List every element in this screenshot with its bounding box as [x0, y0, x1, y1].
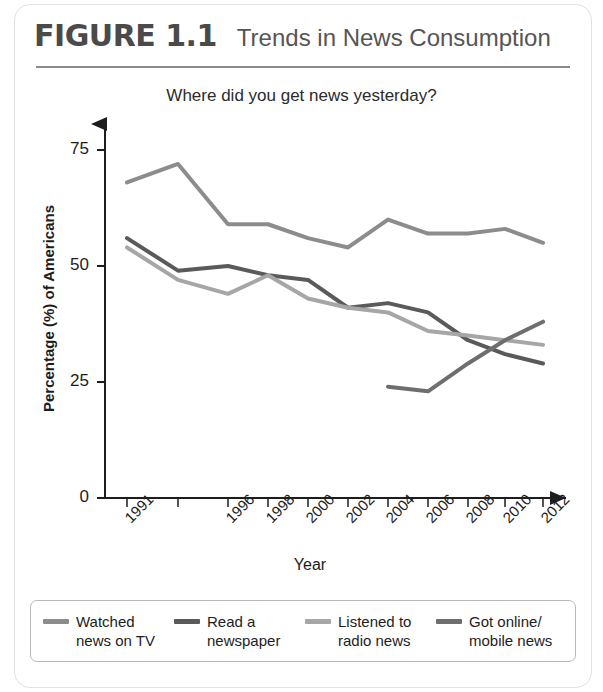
legend-label-line2: newspaper [207, 632, 280, 649]
legend-item: Watchednews on TV [41, 612, 172, 650]
legend-item: Got online/mobile news [434, 612, 565, 650]
series-line-2 [127, 247, 543, 344]
legend-label: Got online/mobile news [469, 612, 552, 650]
figure-card: FIGURE 1.1 Trends in News Consumption Wh… [0, 0, 603, 692]
legend-item: Read anewspaper [172, 612, 303, 650]
legend-label-line2: mobile news [469, 632, 552, 649]
chart-plot-area: Percentage (%) of Americans Year 0255075… [0, 0, 603, 600]
chart-legend: Watchednews on TVRead anewspaperListened… [30, 600, 576, 662]
legend-color-swatch [436, 619, 462, 624]
legend-color-swatch [305, 619, 331, 624]
legend-label-line2: radio news [338, 632, 411, 649]
legend-color-swatch [43, 619, 69, 624]
series-line-0 [127, 164, 543, 248]
legend-color-swatch [174, 619, 200, 624]
legend-label-line1: Watched [76, 613, 135, 630]
legend-label: Read anewspaper [207, 612, 280, 650]
legend-label-line2: news on TV [76, 632, 155, 649]
chart-axes [97, 124, 566, 507]
chart-series [127, 164, 543, 391]
legend-label: Listened toradio news [338, 612, 411, 650]
legend-label-line1: Got online/ [469, 613, 542, 630]
legend-label-line1: Listened to [338, 613, 411, 630]
series-line-1 [127, 238, 543, 363]
legend-label-line1: Read a [207, 613, 255, 630]
legend-item: Listened toradio news [303, 612, 434, 650]
line-chart-svg [0, 0, 603, 600]
legend-label: Watchednews on TV [76, 612, 155, 650]
